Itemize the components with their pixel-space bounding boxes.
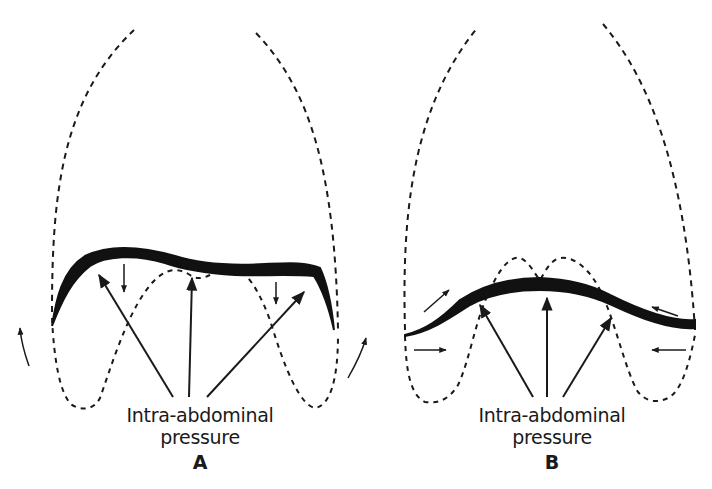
pressure-arrow-center-icon bbox=[189, 278, 192, 397]
pressure-arrow-left-icon bbox=[99, 275, 173, 397]
pressure-arrows-b bbox=[480, 298, 611, 397]
abdomen-outline-a bbox=[52, 267, 338, 409]
panel-letter-b: B bbox=[452, 450, 652, 474]
pressure-arrow-right-icon bbox=[207, 292, 304, 397]
label-b-line1: Intra-abdominal bbox=[452, 404, 652, 426]
diaphragm-a bbox=[52, 248, 334, 330]
tangent-arrow-left-icon bbox=[424, 290, 449, 312]
pressure-arrows-a bbox=[99, 275, 304, 397]
panel-b bbox=[404, 24, 695, 402]
panel-letter-a: A bbox=[100, 450, 300, 474]
diaphragm-b bbox=[405, 278, 695, 336]
label-a-line1: Intra-abdominal bbox=[100, 404, 300, 426]
label-b-line2: pressure bbox=[452, 426, 652, 448]
pressure-arrow-right-icon bbox=[563, 318, 611, 397]
panel-a bbox=[20, 30, 366, 409]
panel-b-label: Intra-abdominal pressure B bbox=[452, 404, 652, 474]
label-a-line2: pressure bbox=[100, 426, 300, 448]
side-curved-arrow-left-icon bbox=[20, 328, 29, 366]
side-curved-arrow-right-icon bbox=[348, 338, 366, 378]
thorax-outline-a bbox=[52, 30, 338, 330]
pressure-arrow-left-icon bbox=[480, 305, 533, 397]
panel-a-label: Intra-abdominal pressure A bbox=[100, 404, 300, 474]
